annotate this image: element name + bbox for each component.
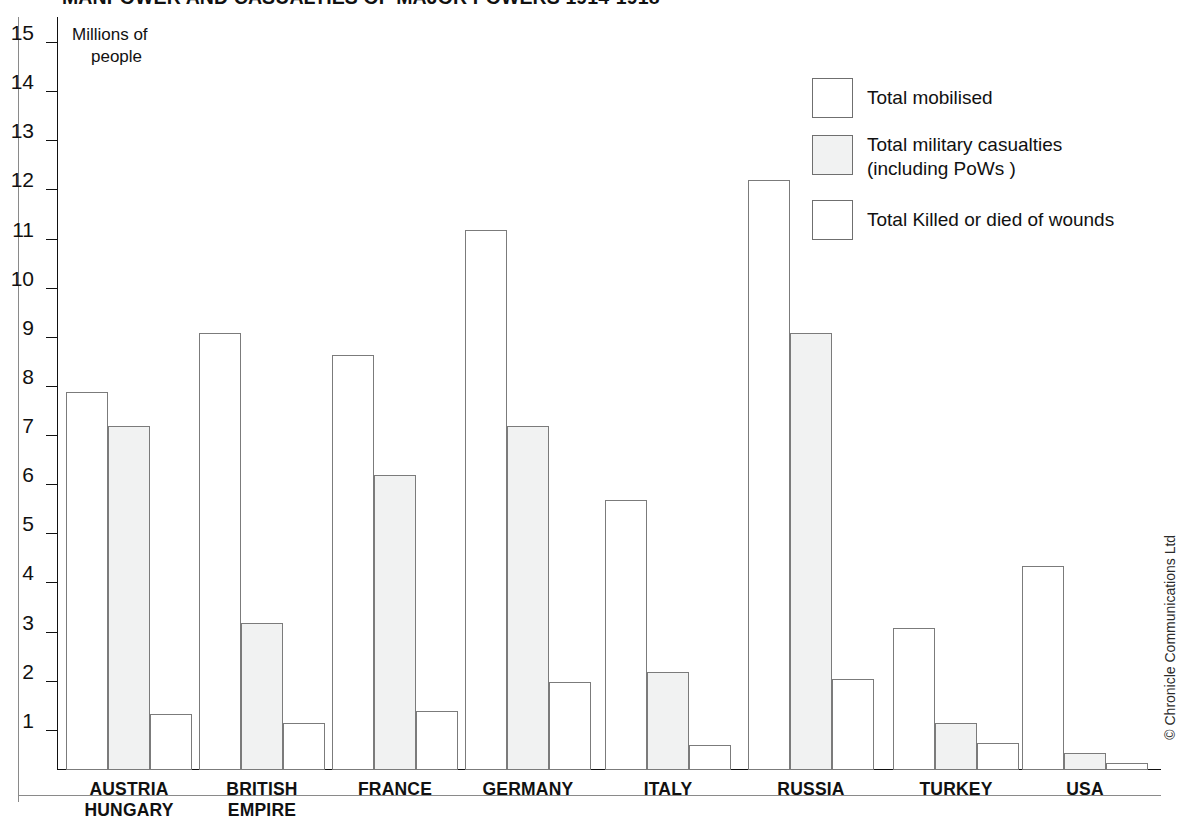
bar bbox=[199, 333, 241, 770]
bar bbox=[605, 500, 647, 770]
bar-group bbox=[465, 17, 591, 770]
bar-group bbox=[605, 17, 731, 770]
legend-label: Total military casualties(including PoWs… bbox=[867, 133, 1062, 181]
bar bbox=[647, 672, 689, 770]
bar bbox=[977, 743, 1019, 770]
bars-area bbox=[57, 17, 1161, 770]
chart-title: MANPOWER AND CASUALTIES OF MAJOR POWERS … bbox=[62, 0, 962, 9]
bar bbox=[241, 623, 283, 770]
bar bbox=[689, 745, 731, 770]
bar-group bbox=[1022, 17, 1148, 770]
bar bbox=[332, 355, 374, 770]
legend-label-line1: Total Killed or died of wounds bbox=[867, 208, 1114, 232]
bar bbox=[1022, 566, 1064, 770]
bar-group bbox=[748, 17, 874, 770]
legend-label: Total Killed or died of wounds bbox=[867, 208, 1114, 232]
bar bbox=[465, 230, 507, 770]
bar bbox=[893, 628, 935, 770]
bar bbox=[108, 426, 150, 770]
bar bbox=[549, 682, 591, 770]
bar bbox=[283, 723, 325, 770]
bar bbox=[1064, 753, 1106, 770]
bar bbox=[150, 714, 192, 771]
bar bbox=[66, 392, 108, 770]
bar-group bbox=[332, 17, 458, 770]
legend-swatch bbox=[812, 200, 853, 240]
bar bbox=[790, 333, 832, 770]
legend-swatch bbox=[812, 135, 853, 175]
copyright-notice: © Chronicle Communications Ltd bbox=[1162, 535, 1178, 740]
bar bbox=[935, 723, 977, 770]
x-axis-label-line2: EMPIRE bbox=[172, 800, 352, 820]
legend-swatch bbox=[812, 78, 853, 118]
legend-label: Total mobilised bbox=[867, 86, 993, 110]
x-axis-label-usa: USA bbox=[995, 779, 1175, 800]
bar bbox=[832, 679, 874, 770]
legend-label-line1: Total mobilised bbox=[867, 86, 993, 110]
bar-group bbox=[199, 17, 325, 770]
bar bbox=[416, 711, 458, 770]
x-axis-label-line1: USA bbox=[995, 779, 1175, 800]
bar-group bbox=[66, 17, 192, 770]
bar bbox=[507, 426, 549, 770]
legend-label-line1: Total military casualties bbox=[867, 133, 1062, 157]
bar bbox=[374, 475, 416, 770]
bar-group bbox=[893, 17, 1019, 770]
legend-label-line2: (including PoWs ) bbox=[867, 157, 1062, 181]
bar bbox=[748, 180, 790, 770]
bar bbox=[1106, 763, 1148, 770]
